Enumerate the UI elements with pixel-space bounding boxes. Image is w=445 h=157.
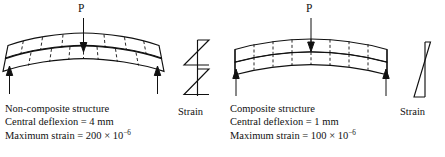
strain-diagram-composite — [404, 40, 438, 100]
caption-strain-prefix-composite: Maximum strain = 100 × 10 — [230, 130, 348, 141]
strain-diagram-noncomposite — [178, 38, 218, 100]
caption-strain-exponent-noncomposite: −6 — [123, 128, 131, 136]
caption-strain-exponent-composite: −6 — [348, 128, 356, 136]
support-arrow-right-composite — [383, 69, 389, 96]
caption-deflexion-composite: Central deflexion = 1 mm — [230, 115, 356, 128]
caption-title-noncomposite: Non-composite structure — [5, 102, 131, 115]
strain-label-noncomposite: Strain — [178, 106, 203, 117]
panel-composite: P — [222, 0, 445, 157]
panel-non-composite: P — [0, 0, 222, 157]
caption-strain-composite: Maximum strain = 100 × 10−6 — [230, 129, 356, 142]
caption-strain-prefix-noncomposite: Maximum strain = 200 × 10 — [5, 130, 123, 141]
caption-composite: Composite structure Central deflexion = … — [230, 102, 356, 142]
strain-label-composite: Strain — [400, 106, 425, 117]
caption-noncomposite: Non-composite structure Central deflexio… — [5, 102, 131, 142]
caption-title-composite: Composite structure — [230, 102, 356, 115]
support-arrow-left-composite — [233, 69, 239, 96]
caption-strain-noncomposite: Maximum strain = 200 × 10−6 — [5, 129, 131, 142]
caption-deflexion-noncomposite: Central deflexion = 4 mm — [5, 115, 131, 128]
